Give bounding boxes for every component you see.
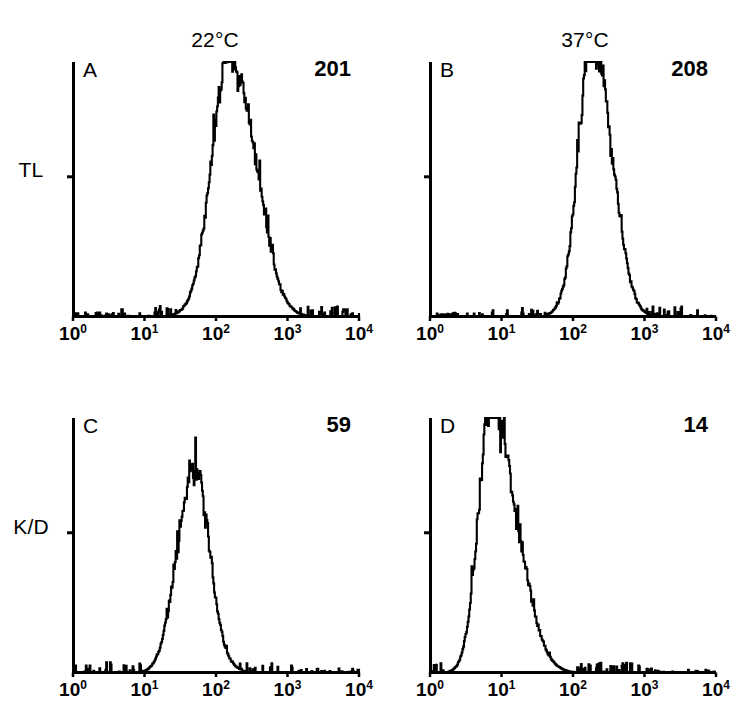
x-tick-label-10e3: 103 <box>274 679 302 701</box>
flow-cytometry-figure: 22°C 37°C TL K/D A201100101102103104B208… <box>0 0 753 715</box>
row-label-kd: K/D <box>0 515 62 539</box>
panel-c: C59100101102103104 <box>73 418 359 713</box>
x-tick-label-10e0: 100 <box>416 679 444 701</box>
x-tick-label-10e4: 104 <box>702 679 730 701</box>
x-tick-label-10e1: 101 <box>131 323 159 345</box>
x-tick-label-10e0: 100 <box>59 679 87 701</box>
x-tick-label-10e4: 104 <box>345 679 373 701</box>
x-tick-label-10e2: 102 <box>559 679 587 701</box>
x-tick-label-10e0: 100 <box>416 323 444 345</box>
column-title-22c: 22°C <box>0 28 430 52</box>
histogram-plot-b <box>430 62 722 325</box>
histogram-trace <box>73 438 359 673</box>
histogram-plot-d <box>430 418 722 681</box>
x-tick-label-10e1: 101 <box>488 323 516 345</box>
histogram-trace <box>430 62 716 317</box>
x-tick-label-10e2: 102 <box>202 679 230 701</box>
x-tick-label-10e3: 103 <box>631 679 659 701</box>
row-label-tl: TL <box>0 158 62 182</box>
x-tick-label-10e2: 102 <box>202 323 230 345</box>
column-title-37c: 37°C <box>370 28 753 52</box>
x-tick-label-10e4: 104 <box>702 323 730 345</box>
histogram-trace <box>430 418 716 673</box>
panel-b: B208100101102103104 <box>430 62 716 357</box>
x-tick-label-10e4: 104 <box>345 323 373 345</box>
x-tick-label-10e3: 103 <box>274 323 302 345</box>
x-tick-label-10e2: 102 <box>559 323 587 345</box>
x-tick-label-10e0: 100 <box>59 323 87 345</box>
histogram-plot-c <box>73 418 365 681</box>
x-tick-label-10e1: 101 <box>131 679 159 701</box>
x-tick-label-10e3: 103 <box>631 323 659 345</box>
panel-a: A201100101102103104 <box>73 62 359 357</box>
histogram-plot-a <box>73 62 365 325</box>
histogram-trace <box>73 62 359 317</box>
x-tick-label-10e1: 101 <box>488 679 516 701</box>
panel-d: D14100101102103104 <box>430 418 716 713</box>
